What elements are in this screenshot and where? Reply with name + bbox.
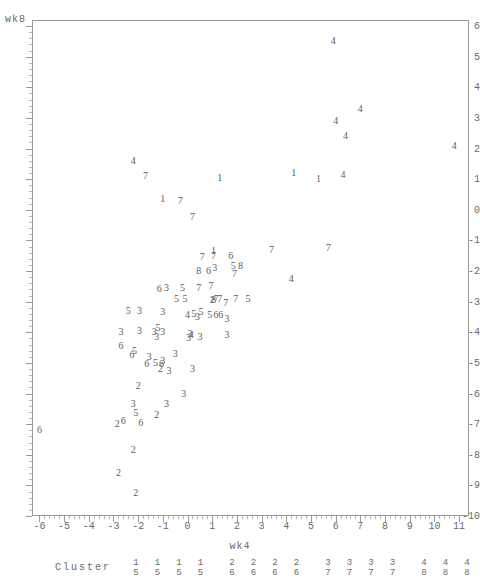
- x-tick-mark: [113, 516, 114, 522]
- x-axis-title: wk4: [0, 541, 480, 552]
- x-tick-minor: [365, 516, 366, 519]
- data-point-glyph: 1: [217, 173, 222, 183]
- x-tick-mark: [64, 516, 65, 522]
- data-point-glyph: 5: [180, 283, 185, 293]
- data-point-glyph: 3: [195, 312, 200, 322]
- data-point-glyph: 3: [167, 366, 172, 376]
- data-point-glyph: 7: [200, 252, 205, 262]
- x-tick-label: 11: [444, 521, 474, 532]
- data-point-glyph: 7: [233, 294, 238, 304]
- x-tick-mark: [311, 516, 312, 522]
- data-point-glyph: 7: [326, 243, 331, 253]
- x-tick-minor: [267, 516, 268, 519]
- data-point-glyph: 4: [131, 156, 136, 166]
- data-point-glyph: 5: [246, 294, 251, 304]
- legend-cluster-pair: 37: [364, 558, 378, 578]
- data-point-glyph: 1: [160, 194, 165, 204]
- x-tick-minor: [69, 516, 70, 519]
- legend-cluster-top: 2: [290, 558, 304, 568]
- data-point-glyph: 2: [116, 468, 121, 478]
- data-point-glyph: 2: [131, 445, 136, 455]
- legend-cluster-pair: 26: [247, 558, 261, 578]
- data-point-glyph: 5: [207, 310, 212, 320]
- y-tick-mark: [26, 516, 32, 517]
- legend-cluster-top: 1: [151, 558, 165, 568]
- x-tick-mark: [336, 516, 337, 522]
- x-tick-mark: [39, 516, 40, 522]
- x-tick-minor: [148, 516, 149, 519]
- data-point-glyph: 7: [269, 245, 274, 255]
- legend-cluster-bottom: 8: [417, 568, 431, 578]
- data-point-glyph: 3: [137, 326, 142, 336]
- x-tick-minor: [405, 516, 406, 519]
- legend-cluster-bottom: 5: [151, 568, 165, 578]
- legend-cluster-top: 3: [386, 558, 400, 568]
- x-tick-minor: [350, 516, 351, 519]
- x-tick-minor: [197, 516, 198, 519]
- data-point-glyph: 6: [129, 350, 134, 360]
- data-point-glyph: 2: [136, 381, 141, 391]
- legend-cluster-bottom: 7: [343, 568, 357, 578]
- data-point-glyph: 2: [133, 488, 138, 498]
- legend-cluster-bottom: 6: [225, 568, 239, 578]
- y-axis-title: wk8: [5, 14, 26, 25]
- x-tick-minor: [247, 516, 248, 519]
- data-point-glyph: 6: [157, 284, 162, 294]
- data-point-glyph: 3: [160, 307, 165, 317]
- data-point-glyph: 3: [186, 333, 191, 343]
- legend-cluster-top: 1: [172, 558, 186, 568]
- x-tick-mark: [188, 516, 189, 522]
- legend-cluster-pair: 26: [225, 558, 239, 578]
- legend-cluster-pair: 15: [129, 558, 143, 578]
- legend-cluster-top: 2: [247, 558, 261, 568]
- data-point-glyph: 6: [206, 266, 211, 276]
- x-tick-minor: [375, 516, 376, 519]
- legend-cluster-pair: 37: [386, 558, 400, 578]
- data-point-glyph: 7: [196, 283, 201, 293]
- x-tick-minor: [425, 516, 426, 519]
- data-point-glyph: 7: [223, 298, 228, 308]
- legend-cluster-pair: 26: [290, 558, 304, 578]
- scatter-plot-page: wk8 6543210-1-2-3-4-5-6-7-8-9-10 -6-5-4-…: [0, 0, 480, 586]
- data-point-glyph: 7: [190, 212, 195, 222]
- legend-cluster-bottom: 5: [172, 568, 186, 578]
- x-tick-minor: [326, 516, 327, 519]
- legend-cluster-top: 2: [225, 558, 239, 568]
- x-tick-minor: [173, 516, 174, 519]
- x-tick-minor: [454, 516, 455, 519]
- legend-cluster-pair: 48: [460, 558, 474, 578]
- x-tick-minor: [395, 516, 396, 519]
- x-tick-mark: [286, 516, 287, 522]
- data-point-glyph: 2: [115, 419, 120, 429]
- data-point-glyph: 7: [143, 171, 148, 181]
- data-point-glyph: 6: [218, 310, 223, 320]
- data-point-glyph: 3: [225, 314, 230, 324]
- x-tick-mark: [360, 516, 361, 522]
- x-tick-minor: [355, 516, 356, 519]
- x-tick-mark: [163, 516, 164, 522]
- x-tick-mark: [410, 516, 411, 522]
- x-tick-minor: [79, 516, 80, 519]
- data-point-glyph: 5: [174, 294, 179, 304]
- data-point-glyph: 6: [138, 418, 143, 428]
- legend-cluster-bottom: 7: [386, 568, 400, 578]
- x-tick-mark: [434, 516, 435, 522]
- data-point-glyph: 8: [196, 266, 201, 276]
- data-point-glyph: 4: [185, 310, 190, 320]
- x-tick-minor: [390, 516, 391, 519]
- data-point-glyph: 1: [316, 174, 321, 184]
- legend-cluster-bottom: 6: [290, 568, 304, 578]
- x-tick-mark: [138, 516, 139, 522]
- legend-cluster-top: 1: [194, 558, 208, 568]
- data-point-glyph: 3: [160, 327, 165, 337]
- x-tick-minor: [94, 516, 95, 519]
- x-tick-minor: [449, 516, 450, 519]
- data-point-glyph: 4: [343, 131, 348, 141]
- x-tick-minor: [123, 516, 124, 519]
- x-tick-mark: [212, 516, 213, 522]
- data-point-glyph: 3: [137, 306, 142, 316]
- data-point-glyph: 3: [164, 283, 169, 293]
- legend-cluster-bottom: 7: [321, 568, 335, 578]
- x-tick-minor: [192, 516, 193, 519]
- x-tick-minor: [316, 516, 317, 519]
